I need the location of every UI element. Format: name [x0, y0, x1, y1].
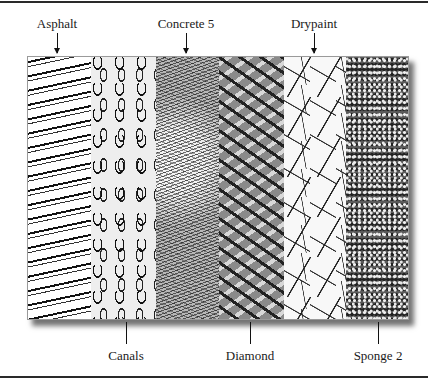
texture-strip-sponge-2 [346, 57, 408, 319]
label-sponge-2: Sponge 2 [354, 348, 403, 364]
arrow-down-icon [314, 33, 315, 53]
texture-sample-image [27, 56, 409, 320]
bottom-rule [0, 376, 428, 378]
texture-strip-drypaint [284, 57, 346, 319]
arrow-down-icon [186, 33, 187, 53]
label-asphalt: Asphalt [37, 16, 77, 32]
pointer-line-icon [126, 322, 127, 344]
label-concrete-5: Concrete 5 [158, 16, 215, 32]
top-rule [0, 1, 428, 3]
texture-strip-asphalt [28, 57, 91, 319]
pointer-line-icon [378, 322, 379, 344]
arrow-down-icon [57, 33, 58, 53]
pointer-line-icon [250, 322, 251, 344]
texture-strip-diamond [219, 57, 284, 319]
texture-strip-canals [91, 57, 156, 319]
label-diamond: Diamond [226, 348, 274, 364]
label-drypaint: Drypaint [291, 16, 337, 32]
label-canals: Canals [108, 348, 143, 364]
texture-strip-concrete-5 [156, 57, 219, 319]
